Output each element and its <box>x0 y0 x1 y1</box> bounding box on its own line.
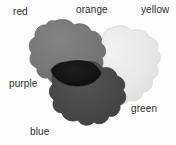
label-purple: purple <box>9 78 37 89</box>
label-yellow: yellow <box>141 4 169 15</box>
blob-illustration <box>0 0 176 145</box>
label-orange: orange <box>76 4 108 15</box>
label-blue: blue <box>30 126 49 137</box>
label-green: green <box>131 103 157 114</box>
color-blob-figure: red orange yellow purple green blue <box>0 0 176 145</box>
label-red: red <box>13 6 28 17</box>
